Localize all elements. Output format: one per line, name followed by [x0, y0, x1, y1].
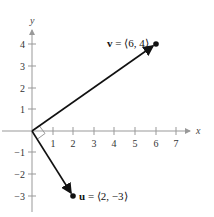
vector-v-endpoint	[153, 41, 159, 47]
svg-text:5: 5	[133, 138, 138, 149]
svg-text:−3: −3	[14, 191, 25, 202]
svg-text:−2: −2	[14, 169, 25, 180]
svg-text:7: 7	[174, 138, 179, 149]
svg-text:4: 4	[20, 39, 25, 50]
svg-text:1: 1	[20, 104, 25, 115]
vector-u-label: u = ⟨2, −3⟩	[79, 190, 128, 202]
svg-text:2: 2	[20, 83, 25, 94]
right-angle-marker	[38, 126, 46, 139]
svg-text:−1: −1	[14, 147, 25, 158]
vector-u-endpoint	[70, 193, 76, 199]
svg-text:1: 1	[51, 138, 56, 149]
svg-text:3: 3	[20, 61, 25, 72]
x-tick-labels: 1 2 3 4 5 6 7	[51, 138, 179, 149]
vector-v-arrow	[32, 46, 153, 131]
svg-text:4: 4	[112, 138, 117, 149]
x-axis-label: x	[195, 125, 201, 136]
y-axis-label: y	[29, 15, 35, 26]
vector-v-label: v = ⟨6, 4⟩	[107, 37, 149, 49]
y-tick-labels: 4 3 2 1 −1 −2 −3	[14, 39, 25, 202]
svg-text:2: 2	[71, 138, 76, 149]
svg-text:6: 6	[154, 138, 159, 149]
svg-text:3: 3	[92, 138, 97, 149]
vector-diagram: x y 1 2 3 4 5 6 7 4 3 2 1 −1 −2 −3	[0, 0, 214, 217]
